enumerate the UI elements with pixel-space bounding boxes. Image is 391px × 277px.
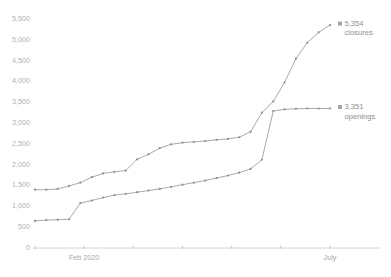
data-point-closures [57, 188, 59, 190]
data-point-closures [79, 182, 81, 184]
data-point-openings [79, 202, 81, 204]
y-axis-tick-label: 4,000 [12, 76, 30, 85]
data-point-closures [91, 176, 93, 178]
data-point-closures [159, 147, 161, 149]
data-point-openings [284, 108, 286, 110]
y-axis-tick-label: 0 [26, 243, 30, 252]
y-axis-tick-label: 3,500 [12, 97, 30, 106]
data-point-openings [227, 174, 229, 176]
y-axis-tick-label: 500 [18, 222, 30, 231]
data-point-openings [170, 186, 172, 188]
data-point-openings [238, 172, 240, 174]
data-point-closures [136, 158, 138, 160]
y-axis-tick-label: 1,000 [12, 201, 30, 210]
data-point-closures [215, 139, 217, 141]
data-point-closures [272, 100, 274, 102]
data-point-openings [159, 188, 161, 190]
data-point-openings [329, 107, 331, 109]
x-axis-tick-label: July [324, 253, 337, 262]
data-point-closures [227, 138, 229, 140]
legend-swatch-closures [338, 22, 342, 26]
data-point-openings [306, 107, 308, 109]
data-point-openings [204, 179, 206, 181]
data-point-openings [215, 177, 217, 179]
data-point-closures [249, 131, 251, 133]
data-point-closures [295, 57, 297, 59]
y-axis-tick-labels: 05001,0001,5002,0002,5003,0003,5004,0004… [12, 14, 30, 252]
data-point-closures [45, 189, 47, 191]
data-point-openings [136, 191, 138, 193]
y-axis-tick-label: 4,500 [12, 56, 30, 65]
line-chart: 05001,0001,5002,0002,5003,0003,5004,0004… [0, 0, 391, 277]
data-point-openings [57, 219, 59, 221]
series-line-openings [35, 108, 330, 220]
data-point-closures [181, 142, 183, 144]
x-axis-tick-label: Feb 2020 [69, 253, 99, 262]
data-point-openings [113, 194, 115, 196]
data-point-closures [306, 42, 308, 44]
data-point-closures [147, 153, 149, 155]
legend-value-closures: 5,354 [345, 19, 364, 28]
legend-swatch-openings [338, 105, 342, 109]
data-point-openings [102, 197, 104, 199]
data-point-closures [113, 171, 115, 173]
data-point-openings [125, 193, 127, 195]
y-axis-tick-label: 5,500 [12, 14, 30, 23]
data-point-openings [147, 189, 149, 191]
data-point-closures [170, 143, 172, 145]
data-point-closures [102, 172, 104, 174]
y-axis-tick-label: 1,500 [12, 180, 30, 189]
y-axis-tick-label: 3,000 [12, 118, 30, 127]
data-point-openings [295, 108, 297, 110]
data-point-openings [45, 219, 47, 221]
y-axis-tick-label: 2,000 [12, 160, 30, 169]
data-point-openings [272, 110, 274, 112]
series-group [34, 24, 331, 222]
data-point-closures [318, 31, 320, 33]
legend-label-closures: closures [345, 28, 373, 37]
data-point-closures [125, 169, 127, 171]
data-point-openings [181, 184, 183, 186]
data-point-openings [249, 168, 251, 170]
data-point-openings [68, 218, 70, 220]
data-point-closures [261, 112, 263, 114]
legend-value-openings: 3,351 [345, 102, 364, 111]
data-point-closures [238, 136, 240, 138]
y-axis-tick-label: 5,000 [12, 35, 30, 44]
data-point-openings [193, 182, 195, 184]
data-point-openings [34, 220, 36, 222]
legend-group: 5,354closures3,351openings [338, 19, 376, 121]
data-point-closures [193, 141, 195, 143]
data-point-closures [329, 24, 331, 26]
data-point-closures [68, 185, 70, 187]
data-point-openings [318, 107, 320, 109]
y-axis-tick-label: 2,500 [12, 139, 30, 148]
x-axis-group: Feb 2020July [33, 246, 380, 262]
data-point-closures [204, 140, 206, 142]
data-point-openings [261, 159, 263, 161]
data-point-closures [34, 189, 36, 191]
chart-container: 05001,0001,5002,0002,5003,0003,5004,0004… [0, 0, 391, 277]
series-line-closures [35, 25, 330, 190]
data-point-openings [91, 199, 93, 201]
data-point-closures [284, 81, 286, 83]
legend-label-openings: openings [345, 112, 376, 121]
